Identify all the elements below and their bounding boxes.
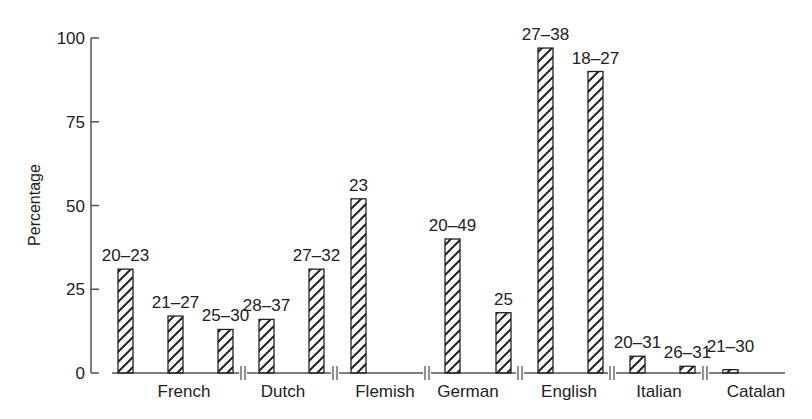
y-tick-label: 50 [66, 197, 85, 216]
bar-dutch-1 [259, 319, 274, 373]
y-axis: 0255075100 [57, 29, 99, 383]
y-tick-label: 0 [76, 364, 85, 383]
category-label-german: German [437, 382, 498, 401]
bar-german-1 [445, 239, 460, 373]
bar-value-label: 21–30 [707, 337, 754, 356]
y-tick-label: 25 [66, 280, 85, 299]
bar-value-label: 20–49 [429, 216, 476, 235]
category-label-italian: Italian [636, 382, 681, 401]
bar-french-3 [218, 329, 233, 373]
bar-english-1 [538, 48, 553, 373]
y-axis-title: Percentage [26, 164, 43, 246]
bar-italian-1 [630, 356, 645, 373]
bar-chart: 0255075100 20–2321–2725–3028–3727–322320… [0, 0, 812, 419]
bar-italian-2 [680, 366, 695, 373]
bar-catalan-1 [723, 370, 738, 373]
bar-french-1 [118, 269, 133, 373]
category-label-english: English [541, 382, 597, 401]
category-label-french: French [158, 382, 211, 401]
bar-value-label: 27–38 [522, 25, 569, 44]
bar-value-label: 27–32 [293, 246, 340, 265]
category-label-dutch: Dutch [261, 382, 305, 401]
bar-value-label: 28–37 [243, 296, 290, 315]
category-label-flemish: Flemish [355, 382, 415, 401]
y-tick-label: 100 [57, 29, 85, 48]
category-labels: FrenchDutchFlemishGermanEnglishItalianCa… [158, 382, 786, 401]
bar-value-label: 23 [349, 176, 368, 195]
bar-french-2 [168, 316, 183, 373]
bar-flemish-1 [351, 199, 366, 373]
bar-value-label: 21–27 [152, 293, 199, 312]
bar-dutch-2 [309, 269, 324, 373]
bar-labels: 20–2321–2725–3028–3727–322320–492527–381… [102, 25, 754, 362]
bar-german-2 [496, 313, 511, 373]
bar-value-label: 26–31 [664, 343, 711, 362]
bar-english-2 [588, 72, 603, 374]
bar-value-label: 18–27 [572, 49, 619, 68]
category-label-catalan: Catalan [727, 382, 786, 401]
bar-value-label: 25 [494, 290, 513, 309]
bar-value-label: 20–23 [102, 246, 149, 265]
y-tick-label: 75 [66, 113, 85, 132]
bar-value-label: 20–31 [614, 333, 661, 352]
